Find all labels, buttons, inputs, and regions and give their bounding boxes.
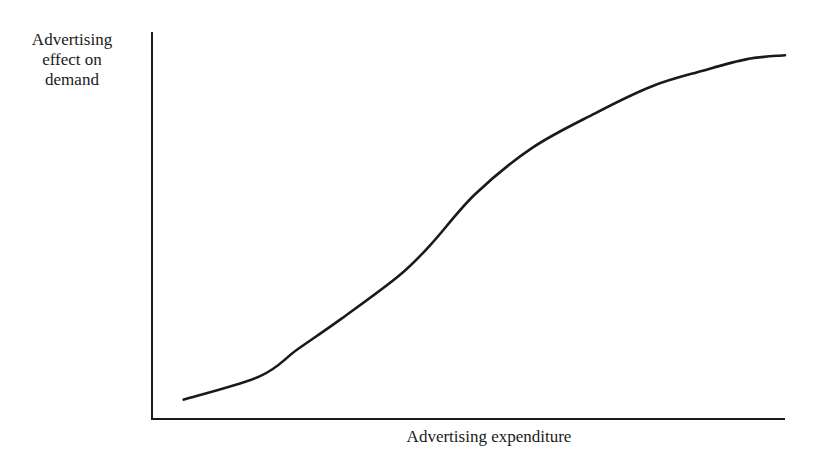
chart-plot-area: [0, 0, 816, 472]
x-axis-label: Advertising expenditure: [352, 427, 626, 447]
response-curve: [184, 55, 785, 399]
